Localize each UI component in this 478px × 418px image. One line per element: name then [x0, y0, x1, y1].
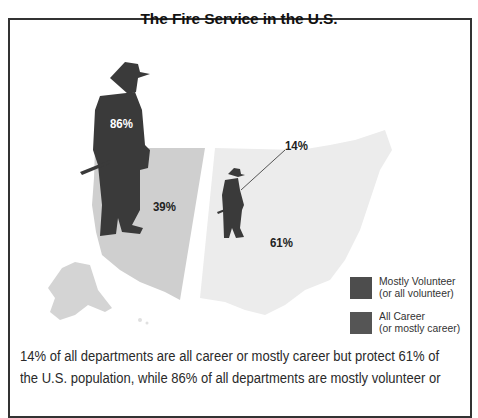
legend-sublabel-career: (or mostly career) — [379, 322, 460, 334]
legend-swatch-volunteer — [350, 277, 372, 299]
large-firefighter-icon — [80, 62, 150, 236]
career-population-label: 61% — [270, 235, 293, 250]
volunteer-departments-label: 86% — [110, 116, 133, 131]
caption-text: 14% of all departments are all career or… — [20, 345, 439, 389]
career-departments-label: 14% — [285, 138, 308, 153]
volunteer-population-label: 39% — [153, 199, 176, 214]
legend-label-volunteer: Mostly Volunteer — [379, 275, 456, 287]
caption-line-1: 14% of all departments are all career or… — [20, 345, 439, 367]
legend-swatch-career — [350, 312, 372, 334]
legend-sublabel-volunteer: (or all volunteer) — [379, 287, 456, 299]
legend-item-volunteer: Mostly Volunteer (or all volunteer) — [350, 275, 464, 299]
legend-label-career: All Career — [379, 310, 460, 322]
caption-line-2: the U.S. population, while 86% of all de… — [20, 367, 439, 389]
legend-item-career: All Career (or mostly career) — [350, 310, 469, 334]
alaska-shape — [48, 262, 112, 320]
